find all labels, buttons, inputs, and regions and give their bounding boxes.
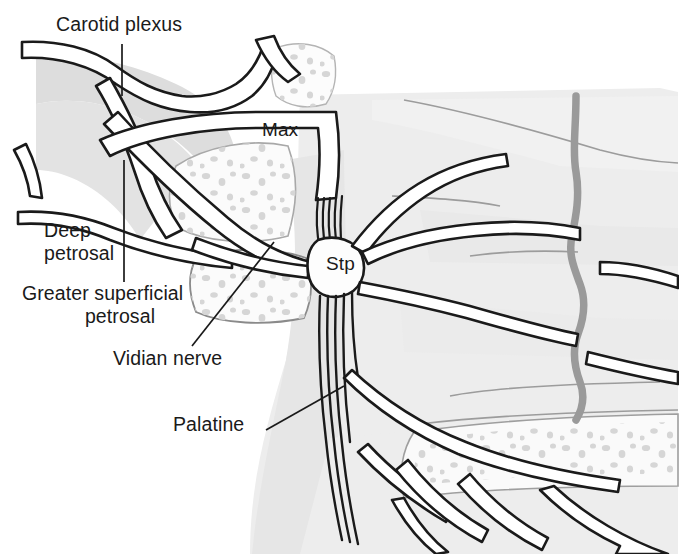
- label-max: Max: [262, 119, 298, 140]
- label-stp: Stp: [326, 253, 355, 274]
- diagram-canvas: [0, 0, 679, 554]
- label-vidian-nerve: Vidian nerve: [113, 348, 222, 369]
- label-deep-petrosal-line2: petrosal: [44, 243, 114, 264]
- label-carotid-plexus: Carotid plexus: [56, 14, 182, 35]
- anatomical-diagram: Carotid plexus Deep petrosal Greater sup…: [0, 0, 679, 554]
- label-greater-superficial-petrosal-line2: petrosal: [22, 306, 218, 327]
- label-palatine: Palatine: [173, 414, 244, 435]
- label-greater-superficial-petrosal-line1: Greater superficial: [22, 283, 183, 304]
- label-deep-petrosal-line1: Deep: [44, 220, 91, 241]
